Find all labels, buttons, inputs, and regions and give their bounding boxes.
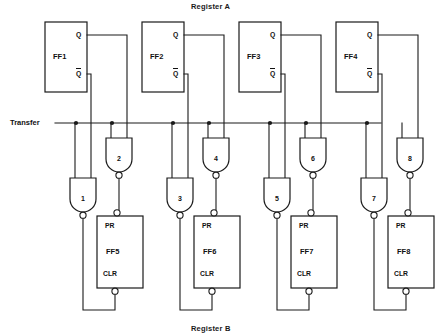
register-a-q-label: Q bbox=[270, 31, 275, 38]
nand-gate-number: 5 bbox=[275, 195, 279, 202]
nand-gate-bubble bbox=[371, 212, 377, 218]
qbar-output-wire bbox=[378, 74, 382, 178]
register-a-ff-name: FF3 bbox=[247, 52, 260, 61]
register-a-ff-name: FF4 bbox=[344, 52, 357, 61]
nand-gate-number: 6 bbox=[311, 155, 315, 162]
register-a-ff-name: FF2 bbox=[150, 52, 163, 61]
transfer-junction-dot bbox=[207, 121, 211, 125]
register-a-qbar-label: Q bbox=[270, 70, 275, 77]
register-b-pr-label: PR bbox=[396, 222, 405, 229]
logic-diagram-canvas: Register A Register B Transfer FF1QQFF2Q… bbox=[0, 0, 437, 336]
register-b-title: Register B bbox=[191, 324, 231, 333]
preset-bubble bbox=[308, 210, 314, 216]
nand-gate-number: 1 bbox=[81, 195, 85, 202]
preset-bubble bbox=[211, 210, 217, 216]
clear-bubble bbox=[209, 288, 215, 294]
register-a-qbar-label: Q bbox=[367, 70, 372, 77]
nand-gate-bubble bbox=[274, 212, 280, 218]
register-b-pr-label: PR bbox=[105, 222, 114, 229]
nand-gate-bubble bbox=[213, 172, 219, 178]
nand-gate-bubble bbox=[177, 212, 183, 218]
register-a-ff-name: FF1 bbox=[53, 52, 66, 61]
nand-gate-number: 2 bbox=[117, 155, 121, 162]
qbar-output-wire bbox=[281, 74, 285, 178]
nand-gate-bubble bbox=[407, 172, 413, 178]
preset-bubble bbox=[405, 210, 411, 216]
transfer-junction-dot bbox=[74, 121, 78, 125]
register-b-clr-label: CLR bbox=[103, 270, 117, 277]
transfer-label: Transfer bbox=[10, 118, 40, 127]
register-b-ff-name: FF7 bbox=[300, 247, 313, 256]
transfer-junction-dot bbox=[110, 121, 114, 125]
register-b-ff-box bbox=[291, 216, 337, 288]
nand-gate-bubble bbox=[310, 172, 316, 178]
register-a-q-label: Q bbox=[76, 31, 81, 38]
qbar-output-wire bbox=[184, 74, 188, 178]
clr-drive-wire bbox=[83, 218, 115, 310]
preset-bubble bbox=[114, 210, 120, 216]
register-b-ff-name: FF8 bbox=[397, 247, 410, 256]
register-b-ff-box bbox=[97, 216, 143, 288]
register-a-title: Register A bbox=[191, 2, 230, 11]
register-b-ff-name: FF5 bbox=[106, 247, 119, 256]
transfer-junction-dot bbox=[365, 121, 369, 125]
register-a-qbar-label: Q bbox=[173, 70, 178, 77]
register-b-clr-label: CLR bbox=[297, 270, 311, 277]
nand-gate-number: 7 bbox=[372, 195, 376, 202]
clear-bubble bbox=[306, 288, 312, 294]
register-b-clr-label: CLR bbox=[200, 270, 214, 277]
nand-gate-number: 4 bbox=[214, 155, 218, 162]
wire-layer bbox=[55, 35, 418, 310]
nand-gate-bubble bbox=[80, 212, 86, 218]
nand-gate-number: 8 bbox=[408, 155, 412, 162]
clr-drive-wire bbox=[180, 218, 212, 310]
clr-drive-wire bbox=[277, 218, 309, 310]
q-output-wire bbox=[378, 35, 418, 138]
nand-gate-number: 3 bbox=[178, 195, 182, 202]
register-a-q-label: Q bbox=[173, 31, 178, 38]
register-b-ff-box bbox=[388, 216, 434, 288]
transfer-junction-dot bbox=[304, 121, 308, 125]
register-a-qbar-label: Q bbox=[76, 70, 81, 77]
clear-bubble bbox=[403, 288, 409, 294]
nand-gate-bubble bbox=[116, 172, 122, 178]
register-b-ff-name: FF6 bbox=[203, 247, 216, 256]
register-b-clr-label: CLR bbox=[394, 270, 408, 277]
circuit-schematic-svg bbox=[0, 0, 437, 336]
transfer-junction-dot bbox=[268, 121, 272, 125]
component-outline-layer bbox=[45, 22, 434, 288]
clr-drive-wire bbox=[374, 218, 406, 310]
clear-bubble bbox=[112, 288, 118, 294]
register-b-ff-box bbox=[194, 216, 240, 288]
register-a-q-label: Q bbox=[367, 31, 372, 38]
register-b-pr-label: PR bbox=[299, 222, 308, 229]
transfer-junction-dot bbox=[171, 121, 175, 125]
register-b-pr-label: PR bbox=[202, 222, 211, 229]
